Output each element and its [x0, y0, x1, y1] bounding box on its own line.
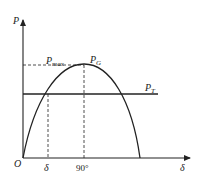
peak-angle-label: 90° [76, 163, 89, 173]
pmax-label: Pmax [45, 55, 65, 68]
y-axis-label: P [12, 15, 19, 26]
x-axis-label: δ [180, 162, 185, 173]
power-curve [23, 64, 140, 158]
turbine-label: PT [144, 82, 156, 95]
operating-angle-label: δ [44, 162, 49, 173]
origin-label: O [14, 158, 21, 169]
power-angle-diagram: P Pmax PG PT O δ 90° δ [0, 0, 200, 177]
